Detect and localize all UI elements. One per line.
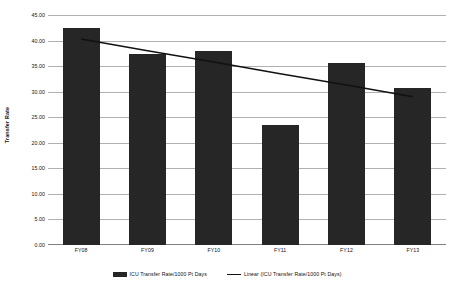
bar-slot <box>380 15 446 245</box>
bar[interactable] <box>129 54 166 245</box>
chart-legend: ICU Transfer Rate/1000 Pt DaysLinear (IC… <box>0 268 454 280</box>
bar-slot <box>114 15 180 245</box>
y-axis-tick-label: 30.00 <box>32 89 45 95</box>
x-axis-tick-label: FY12 <box>313 247 379 259</box>
y-axis-title-label: Transfer Rate <box>4 107 10 143</box>
y-axis-tick-label: 45.00 <box>32 12 45 18</box>
y-axis-tick-label: 35.00 <box>32 63 45 69</box>
y-axis-title: Transfer Rate <box>0 0 14 250</box>
bar-series-layer <box>48 15 446 245</box>
legend-label: ICU Transfer Rate/1000 Pt Days <box>130 271 207 277</box>
x-axis-tick-label: FY08 <box>48 247 114 259</box>
y-axis-tick-label: 15.00 <box>32 165 45 171</box>
x-axis-tick-label: FY11 <box>247 247 313 259</box>
x-axis-tick-labels: FY08FY09FY10FY11FY12FY13 <box>48 247 446 259</box>
bar[interactable] <box>195 51 232 245</box>
legend-label: Linear (ICU Transfer Rate/1000 Pt Days) <box>244 271 342 277</box>
bar[interactable] <box>328 63 365 245</box>
y-axis-tick-labels: 0.005.0010.0015.0020.0025.0030.0035.0040… <box>14 15 48 245</box>
bar[interactable] <box>63 28 100 245</box>
bar[interactable] <box>394 88 431 245</box>
x-axis-tick-label: FY13 <box>380 247 446 259</box>
bar-slot <box>247 15 313 245</box>
y-axis-tick-label: 40.00 <box>32 38 45 44</box>
bar-slot <box>181 15 247 245</box>
y-axis-tick-label: 5.00 <box>35 216 46 222</box>
plot-area <box>48 15 446 245</box>
y-axis-tick-label: 0.00 <box>35 242 46 248</box>
legend-bar-swatch-icon <box>113 272 127 277</box>
bar[interactable] <box>262 125 299 245</box>
x-axis-tick-label: FY09 <box>114 247 180 259</box>
y-axis-tick-label: 20.00 <box>32 140 45 146</box>
y-axis-tick-label: 25.00 <box>32 114 45 120</box>
x-axis-tick-label: FY10 <box>181 247 247 259</box>
y-axis-tick-label: 10.00 <box>32 191 45 197</box>
legend-line-swatch-icon <box>227 272 241 277</box>
bar-slot <box>313 15 379 245</box>
legend-entry[interactable]: Linear (ICU Transfer Rate/1000 Pt Days) <box>227 271 342 277</box>
bar-slot <box>48 15 114 245</box>
chart-container: Transfer Rate 0.005.0010.0015.0020.0025.… <box>0 0 454 286</box>
legend-entry[interactable]: ICU Transfer Rate/1000 Pt Days <box>113 271 207 277</box>
